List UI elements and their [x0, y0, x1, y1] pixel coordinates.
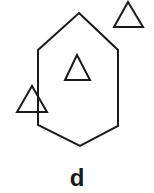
triangle-top-right-shape	[114, 2, 143, 27]
triangle-center-shape	[65, 55, 90, 80]
option-label: d	[0, 166, 154, 190]
triangle-left-shape	[17, 86, 47, 112]
